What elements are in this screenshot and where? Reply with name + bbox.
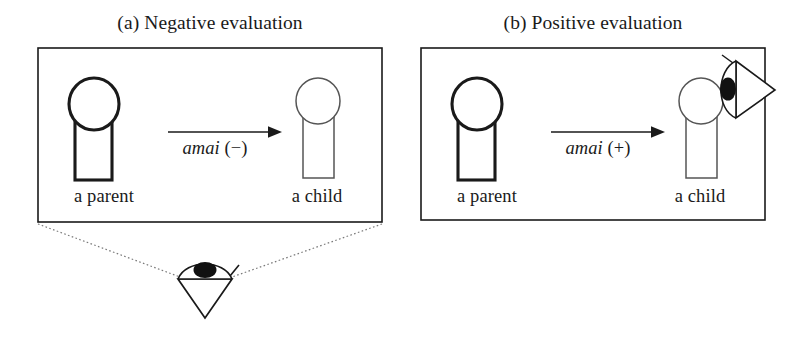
panel-a-parent-label: a parent — [44, 186, 164, 207]
panel-a-child-label: a child — [262, 186, 372, 207]
panel-a-relation-term: amai — [182, 138, 219, 158]
parent-head-b — [452, 78, 502, 130]
eye-cone-bottom — [178, 279, 232, 318]
eye-pupil-bottom — [194, 262, 217, 278]
panel-a-title: (a) Negative evaluation — [38, 12, 382, 34]
panel-a-parent-figure — [69, 78, 119, 180]
panel-a-child-figure — [296, 78, 340, 178]
panel-b-relation-value: (+) — [608, 138, 631, 158]
panel-a-relation-value: (−) — [225, 138, 248, 158]
child-head-a — [296, 78, 340, 124]
child-head-b — [679, 78, 723, 124]
panel-b-parent-figure — [452, 78, 502, 180]
figure-root: (a) Negative evaluation (b) Positive eva… — [0, 0, 808, 339]
eye-symbol-bottom — [178, 262, 239, 318]
eye-pupil-b — [720, 78, 736, 101]
projection-line-left — [38, 224, 180, 277]
panel-b-relation-term: amai — [565, 138, 602, 158]
panel-b-relation-label: amai (+) — [538, 138, 658, 159]
panel-a-relation-label: amai (−) — [155, 138, 275, 159]
panel-b-parent-label: a parent — [427, 186, 547, 207]
figure-drawing — [0, 0, 808, 339]
parent-head-a — [69, 78, 119, 130]
panel-b-child-figure — [679, 78, 723, 178]
panel-b-title: (b) Positive evaluation — [421, 12, 765, 34]
panel-b-child-label: a child — [645, 186, 755, 207]
projection-line-right — [232, 224, 382, 277]
eye-lash-bottom — [230, 265, 239, 276]
